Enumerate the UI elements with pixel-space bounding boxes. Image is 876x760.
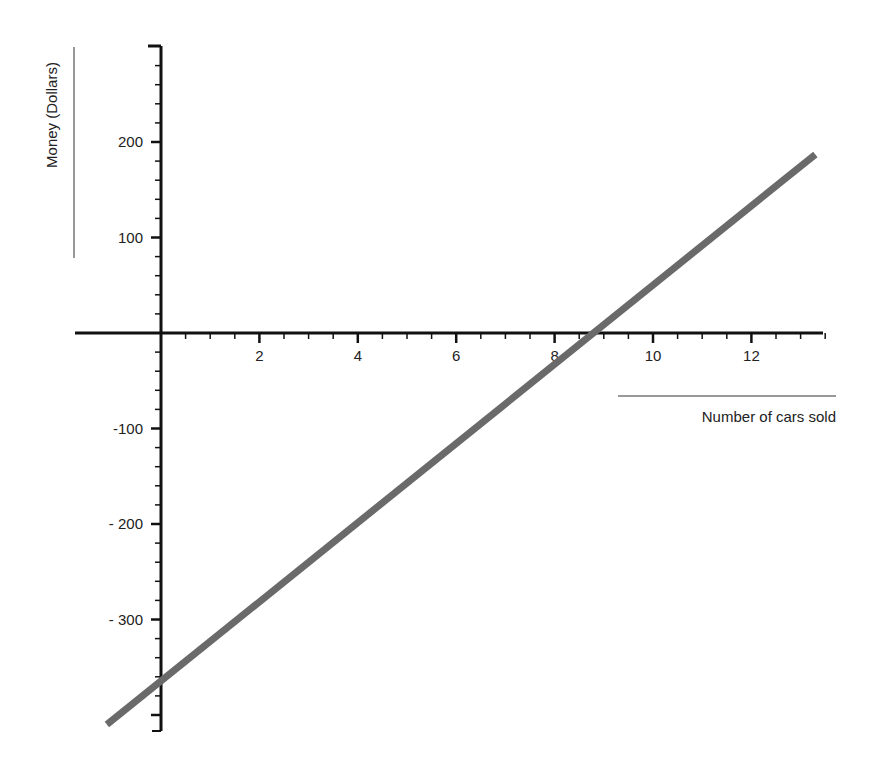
y-tick-label: -100 bbox=[113, 420, 143, 437]
chart-svg: 24681012200100-100- 200- 300Money (Dolla… bbox=[0, 0, 876, 760]
chart: 24681012200100-100- 200- 300Money (Dolla… bbox=[0, 0, 876, 760]
x-tick-label: 10 bbox=[645, 347, 662, 364]
profit-line bbox=[107, 154, 815, 724]
x-tick-label: 6 bbox=[452, 347, 460, 364]
x-tick-label: 12 bbox=[743, 347, 760, 364]
y-tick-label: 100 bbox=[118, 229, 143, 246]
y-tick-label: - 200 bbox=[109, 515, 143, 532]
y-axis-label: Money (Dollars) bbox=[43, 62, 60, 168]
x-tick-label: 2 bbox=[255, 347, 263, 364]
x-axis-label: Number of cars sold bbox=[702, 408, 836, 425]
y-tick-label: 200 bbox=[118, 133, 143, 150]
y-tick-label: - 300 bbox=[109, 611, 143, 628]
x-tick-label: 4 bbox=[354, 347, 362, 364]
